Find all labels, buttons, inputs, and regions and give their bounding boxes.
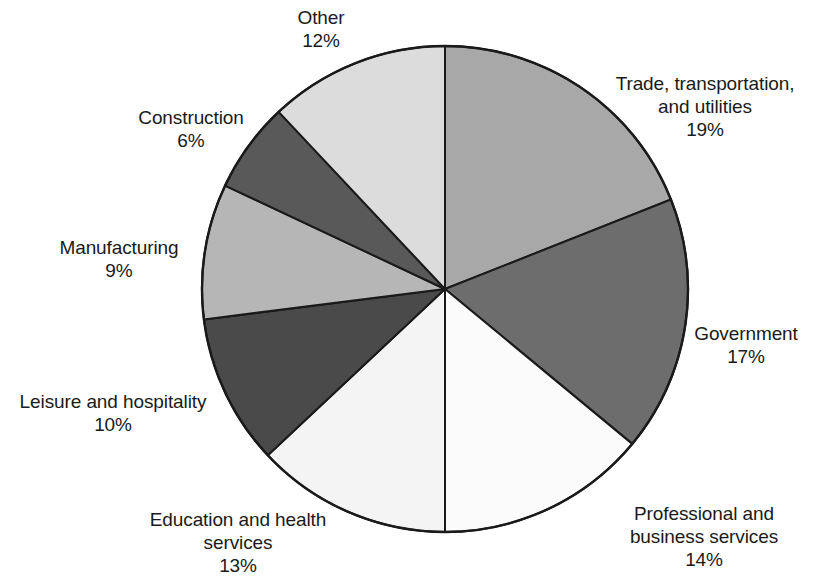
slice-label-professional-business-services: Professional and business services 14% [592, 502, 816, 571]
slice-label-trade-transportation-utilities: Trade, transportation, and utilities 19% [592, 72, 818, 141]
slice-label-government: Government 17% [672, 322, 820, 368]
slice-label-construction: Construction 6% [102, 106, 280, 152]
slice-label-other: Other 12% [236, 6, 406, 52]
slice-label-education-health-services: Education and health services 13% [104, 508, 372, 577]
pie-chart: Other 12% Trade, transportation, and uti… [0, 0, 820, 588]
slice-label-manufacturing: Manufacturing 9% [26, 236, 212, 282]
slice-label-leisure-hospitality: Leisure and hospitality 10% [0, 390, 226, 436]
